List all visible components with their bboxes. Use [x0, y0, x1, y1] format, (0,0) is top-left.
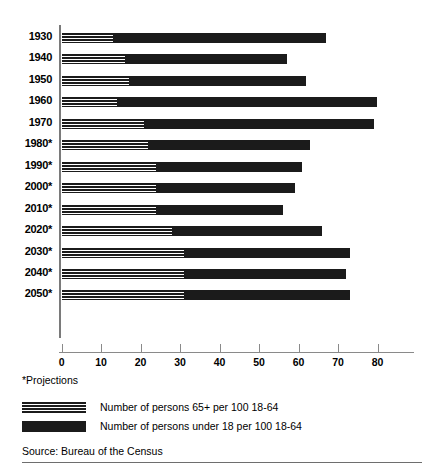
x-tick-label-70: 70	[332, 356, 343, 368]
category-label-2010: 2010*	[0, 202, 52, 214]
category-label-2030: 2030*	[0, 245, 52, 257]
bar-1960	[62, 97, 378, 107]
bar-1940	[62, 54, 287, 64]
bar-segment-65plus	[62, 119, 145, 129]
bar-1950	[62, 76, 307, 86]
bar-segment-65plus	[62, 54, 125, 64]
bar-2050	[62, 290, 350, 300]
chart-page: 01020304050607080 1930194019501960197019…	[0, 0, 443, 466]
legend-label-under18: Number of persons under 18 per 100 18-64	[100, 419, 302, 434]
bar-1970	[62, 119, 374, 129]
bar-segment-65plus	[62, 269, 184, 279]
bottom-divider	[22, 462, 422, 463]
category-label-1980: 1980*	[0, 137, 52, 149]
category-label-1970: 1970	[0, 116, 52, 128]
bar-segment-65plus	[62, 290, 184, 300]
x-tick-20	[141, 344, 142, 352]
bar-segment-under18	[144, 119, 373, 129]
bar-segment-65plus	[62, 140, 149, 150]
bar-segment-65plus	[62, 162, 157, 172]
striped-swatch-icon	[22, 402, 86, 413]
category-label-1930: 1930	[0, 30, 52, 42]
bar-segment-under18	[129, 76, 307, 86]
bar-segment-under18	[113, 33, 326, 43]
category-label-2020: 2020*	[0, 223, 52, 235]
category-label-2000: 2000*	[0, 180, 52, 192]
bar-segment-under18	[148, 140, 310, 150]
x-tick-label-0: 0	[59, 356, 65, 368]
x-tick-40	[220, 344, 221, 352]
x-tick-label-50: 50	[253, 356, 264, 368]
bar-segment-65plus	[62, 248, 184, 258]
solid-swatch-icon	[22, 421, 86, 432]
x-tick-10	[101, 344, 102, 352]
bar-2030	[62, 248, 350, 258]
bar-segment-under18	[125, 54, 287, 64]
bar-segment-under18	[172, 226, 322, 236]
bar-1990	[62, 162, 303, 172]
bar-segment-65plus	[62, 183, 157, 193]
legend-item-under18: Number of persons under 18 per 100 18-64	[22, 419, 432, 438]
bar-segment-under18	[156, 162, 302, 172]
bar-segment-65plus	[62, 76, 129, 86]
x-tick-30	[180, 344, 181, 352]
bar-segment-65plus	[62, 97, 117, 107]
category-label-1940: 1940	[0, 51, 52, 63]
bar-2040	[62, 269, 346, 279]
bar-segment-under18	[117, 97, 378, 107]
bar-segment-under18	[156, 183, 294, 193]
x-tick-label-20: 20	[135, 356, 146, 368]
legend-label-65plus: Number of persons 65+ per 100 18-64	[100, 400, 278, 415]
x-tick-label-30: 30	[174, 356, 185, 368]
category-label-1990: 1990*	[0, 159, 52, 171]
bar-2000	[62, 183, 295, 193]
bar-segment-under18	[184, 290, 350, 300]
bar-2010	[62, 205, 283, 215]
bar-segment-under18	[184, 248, 350, 258]
category-label-2050: 2050*	[0, 287, 52, 299]
legend-item-65plus: Number of persons 65+ per 100 18-64	[22, 400, 432, 419]
x-axis-line	[59, 352, 414, 353]
bar-segment-65plus	[62, 226, 173, 236]
category-label-2040: 2040*	[0, 266, 52, 278]
projections-footnote: *Projections	[22, 374, 78, 386]
x-tick-60	[299, 344, 300, 352]
category-label-1960: 1960	[0, 94, 52, 106]
x-tick-label-10: 10	[95, 356, 106, 368]
bar-1980	[62, 140, 311, 150]
chart-legend: Number of persons 65+ per 100 18-64 Numb…	[22, 400, 432, 438]
plot-area: 01020304050607080 1930194019501960197019…	[0, 0, 443, 340]
x-tick-label-80: 80	[372, 356, 383, 368]
x-tick-80	[378, 344, 379, 352]
category-label-1950: 1950	[0, 73, 52, 85]
x-tick-0	[62, 344, 63, 352]
x-tick-label-60: 60	[293, 356, 304, 368]
y-axis-line	[59, 25, 61, 338]
bar-segment-65plus	[62, 33, 113, 43]
x-tick-label-40: 40	[214, 356, 225, 368]
x-tick-50	[259, 344, 260, 352]
bar-segment-65plus	[62, 205, 157, 215]
x-tick-70	[338, 344, 339, 352]
bar-1930	[62, 33, 327, 43]
bar-segment-under18	[184, 269, 346, 279]
bar-segment-under18	[156, 205, 282, 215]
bar-2020	[62, 226, 323, 236]
source-note: Source: Bureau of the Census	[22, 445, 163, 457]
